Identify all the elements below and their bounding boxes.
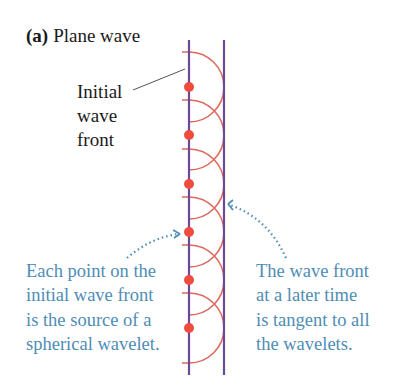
- left-arrowhead-icon: [173, 230, 180, 238]
- caption-line: is the source of a: [26, 310, 151, 330]
- label-line: wave: [77, 105, 117, 126]
- caption-line: at a later time: [256, 285, 357, 305]
- source-dot: [184, 323, 194, 333]
- figure-title: (a)Plane wave: [26, 25, 140, 47]
- right-caption: The wave front at a later time is tangen…: [256, 261, 370, 354]
- wavelet-arc: [189, 52, 224, 122]
- right-dotted-arrow: [230, 205, 286, 258]
- source-dot: [184, 82, 194, 92]
- leader-line: [133, 69, 185, 90]
- wavelet-arc: [189, 100, 224, 170]
- caption-line: initial wave front: [26, 285, 154, 305]
- initial-wave-front-label: Initial wave front: [77, 81, 122, 150]
- plane-wave-diagram: (a)Plane wave Initial wave front Each po…: [0, 0, 402, 390]
- wavelet-arc: [189, 149, 224, 219]
- wavelet-arc: [189, 293, 224, 363]
- caption-line: Each point on the: [26, 261, 156, 281]
- source-dot: [184, 227, 194, 237]
- caption-line: spherical wavelet.: [26, 334, 160, 354]
- left-dotted-arrow: [127, 234, 178, 258]
- title-prefix: (a): [26, 25, 48, 47]
- label-line: front: [77, 129, 115, 150]
- source-dot: [184, 275, 194, 285]
- caption-line: The wave front: [256, 261, 370, 281]
- left-caption: Each point on the initial wave front is …: [26, 261, 160, 354]
- source-dot: [184, 179, 194, 189]
- wavelet-arc: [189, 197, 224, 267]
- label-line: Initial: [77, 81, 122, 102]
- caption-line: is tangent to all: [256, 310, 370, 330]
- source-dot: [184, 130, 194, 140]
- caption-line: the wavelets.: [256, 334, 353, 354]
- wavelet-arc: [189, 245, 224, 315]
- title-text: Plane wave: [53, 25, 140, 46]
